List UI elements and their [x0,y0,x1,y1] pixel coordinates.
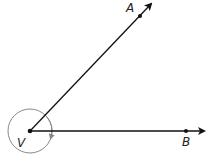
label-B: B [182,135,190,149]
ray-VA [30,4,151,131]
vertex-point [28,129,33,134]
label-A: A [125,1,134,15]
label-V: V [17,136,26,150]
angle-diagram: A B V [0,0,211,165]
point-B [184,129,188,133]
point-A [138,14,142,18]
